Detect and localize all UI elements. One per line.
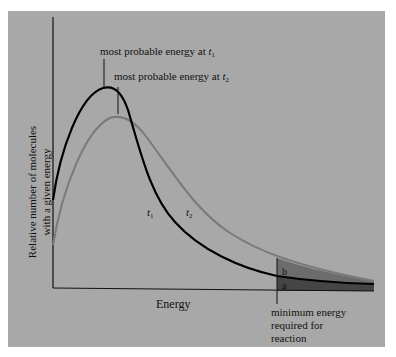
svg-text:required for: required for xyxy=(271,319,324,331)
peak-t2-label: most probable energy at t2 xyxy=(114,70,230,84)
x-axis-label: Energy xyxy=(156,297,190,311)
curve-t1-label: t1 xyxy=(147,206,154,220)
region-b-label: b xyxy=(282,266,287,277)
curve-t2 xyxy=(53,117,374,281)
svg-text:with a given energy: with a given energy xyxy=(40,148,52,235)
threshold-label: minimum energy required for reaction xyxy=(271,306,347,344)
y-axis-label: Relative number of molecules with a give… xyxy=(26,126,52,258)
region-a-label: a xyxy=(282,280,287,291)
svg-text:Relative number of molecule: Relative number of molecules xyxy=(26,126,38,258)
peak-t1-label: most probable energy at t1 xyxy=(100,45,216,59)
svg-text:reaction: reaction xyxy=(271,332,307,344)
svg-text:minimum energy: minimum energy xyxy=(271,306,347,318)
curve-t1 xyxy=(53,87,374,284)
curve-t2-label: t2 xyxy=(186,206,193,220)
chart-svg: most probable energy at t1 most probable… xyxy=(0,0,396,357)
